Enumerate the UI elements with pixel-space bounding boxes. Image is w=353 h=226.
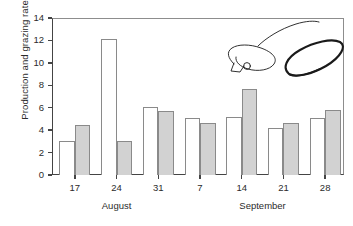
x-tick-label: 7 [180,182,220,193]
bar-production-24 [101,39,117,175]
bar-series-layer [52,18,344,175]
y-tick-label: 10 [18,57,44,68]
bar-chart-figure: Production and grazing rates 02468101214… [0,0,353,226]
bar-grazing-14 [242,89,258,175]
bar-production-28 [310,118,326,175]
bar-grazing-28 [325,110,341,175]
bar-grazing-7 [200,123,216,175]
x-tick-mark [199,175,200,179]
x-tick-label: 24 [97,182,137,193]
x-tick-label: 21 [263,182,303,193]
y-tick-label: 8 [18,79,44,90]
bar-production-31 [143,107,159,175]
x-axis-group-label-september: September [218,200,308,211]
bar-production-7 [185,118,201,175]
x-tick-mark [324,175,325,179]
x-tick-mark [158,175,159,179]
x-tick-label: 14 [222,182,262,193]
bar-grazing-21 [283,123,299,175]
x-axis-group-label-august: August [72,200,162,211]
y-tick-label: 12 [18,34,44,45]
bar-production-21 [268,128,284,175]
bar-grazing-17 [75,125,91,175]
bar-production-14 [226,117,242,175]
x-tick-label: 31 [138,182,178,193]
bar-production-17 [59,141,75,175]
x-tick-mark [283,175,284,179]
x-tick-mark [74,175,75,179]
bar-grazing-24 [117,141,133,175]
y-tick-label: 4 [18,124,44,135]
x-tick-label: 17 [55,182,95,193]
y-tick-label: 2 [18,147,44,158]
y-tick-label: 14 [18,12,44,23]
x-tick-label: 28 [305,182,345,193]
y-tick-label: 0 [18,169,44,180]
x-tick-mark [241,175,242,179]
bar-grazing-31 [158,111,174,175]
x-tick-mark [116,175,117,179]
y-tick-label: 6 [18,102,44,113]
